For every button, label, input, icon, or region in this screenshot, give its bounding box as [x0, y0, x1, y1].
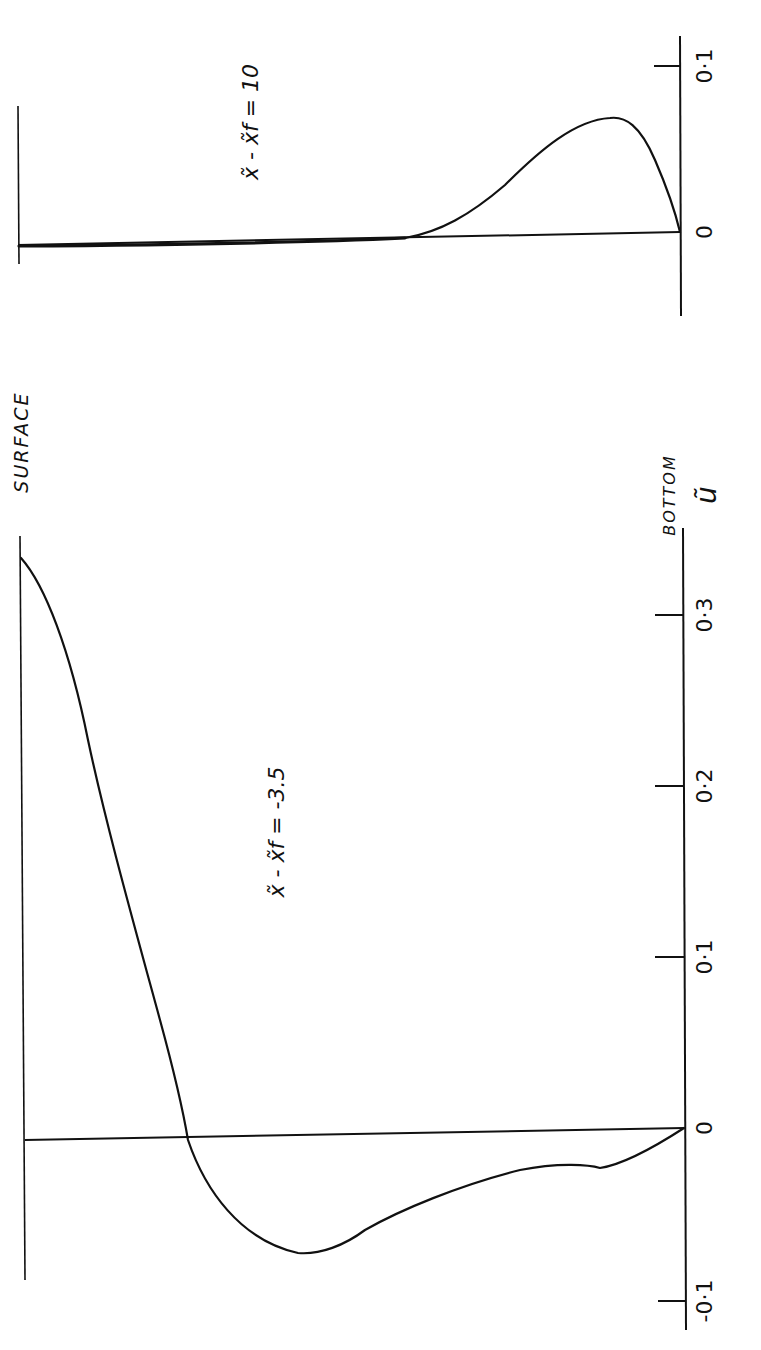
bottom-label: BOTTOM	[660, 454, 679, 536]
bottom-tick-label-0.2: 0·2	[692, 769, 717, 804]
bottom-annotation: x̃ - x̃f = -3.5	[264, 766, 289, 898]
top-zero-line	[18, 232, 680, 245]
bottom-tick-label-neg0.1: -0·1	[692, 1280, 717, 1323]
top-panel: 0·1 0 x̃ - x̃f = 10	[18, 36, 717, 316]
top-u-axis	[680, 36, 681, 316]
top-tick-label-0.1: 0·1	[692, 49, 717, 84]
top-surface-line	[18, 106, 19, 264]
velocity-profile-figure: 0·1 0 x̃ - x̃f = 10 0·3 0·2 0·1 0 -0·1 x…	[0, 0, 761, 1350]
bottom-tick-label-0.3: 0·3	[692, 598, 717, 633]
bottom-tick-label-0.1: 0·1	[692, 940, 717, 975]
bottom-u-axis	[683, 528, 686, 1330]
top-profile-curve	[405, 118, 680, 238]
top-tick-label-0: 0	[692, 225, 717, 239]
bottom-surface-line	[20, 536, 25, 1280]
bottom-profile-curve	[21, 558, 684, 1253]
bottom-tick-label-0: 0	[692, 1121, 717, 1135]
surface-label: SURFACE	[10, 391, 32, 492]
bottom-zero-line	[25, 1128, 684, 1140]
top-annotation: x̃ - x̃f = 10	[238, 64, 263, 181]
u-axis-label: ũ	[690, 486, 723, 504]
bottom-panel: 0·3 0·2 0·1 0 -0·1 x̃ - x̃f = -3.5 SURFA…	[10, 391, 723, 1330]
